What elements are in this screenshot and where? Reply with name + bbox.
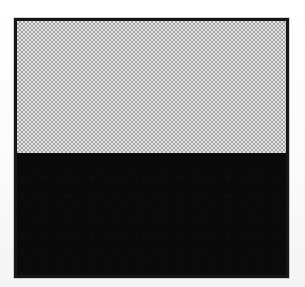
figure-root: Two-tone bordered panel 50% gray halfton… xyxy=(0,0,305,287)
bordered-panel: 50% gray halftone solid black xyxy=(14,18,289,278)
lower-band-tone-label: solid black xyxy=(16,152,17,153)
panel-inner: 50% gray halftone solid black xyxy=(17,21,286,275)
lower-band-solid: solid black xyxy=(17,153,286,275)
upper-band-dither: 50% gray halftone xyxy=(17,21,286,153)
upper-band-tone-label: 50% gray halftone xyxy=(16,20,17,21)
